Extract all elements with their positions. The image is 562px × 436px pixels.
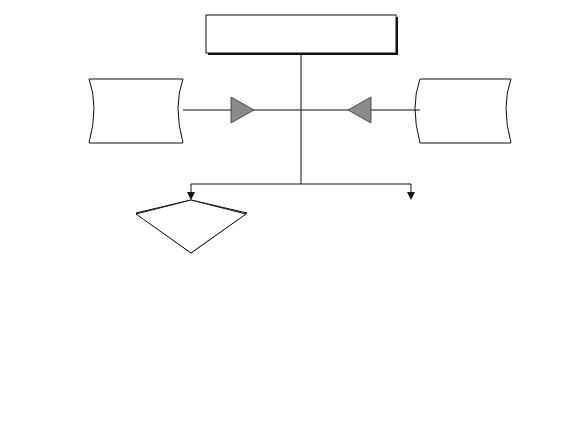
decision-angiotensin: [136, 200, 247, 253]
input-circulating-raas: [89, 79, 183, 143]
title-box: [206, 15, 398, 55]
flow-diagram: [0, 0, 562, 436]
triangle-left-icon: [348, 97, 371, 123]
input-intramyocardial-raas: [415, 79, 511, 143]
triangle-right-icon: [231, 97, 254, 123]
